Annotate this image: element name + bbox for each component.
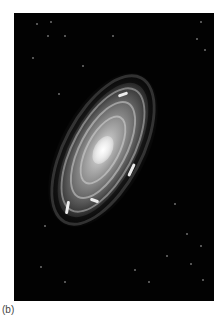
galaxy-photo-panel	[14, 13, 214, 301]
star	[32, 57, 34, 59]
star	[204, 49, 206, 51]
star	[134, 269, 136, 271]
star	[44, 225, 46, 227]
star	[58, 93, 60, 95]
star	[148, 281, 150, 283]
star	[64, 35, 66, 37]
star	[166, 255, 168, 257]
star	[112, 35, 114, 37]
star	[174, 203, 176, 205]
star	[200, 245, 202, 247]
star	[186, 233, 188, 235]
star	[82, 65, 84, 67]
star	[196, 38, 198, 40]
star	[64, 281, 66, 283]
star	[50, 21, 52, 23]
star	[47, 35, 49, 37]
star	[190, 263, 192, 265]
star	[200, 21, 202, 23]
star	[202, 279, 204, 281]
figure-label: (b)	[2, 304, 14, 315]
star	[40, 266, 42, 268]
star	[36, 23, 38, 25]
